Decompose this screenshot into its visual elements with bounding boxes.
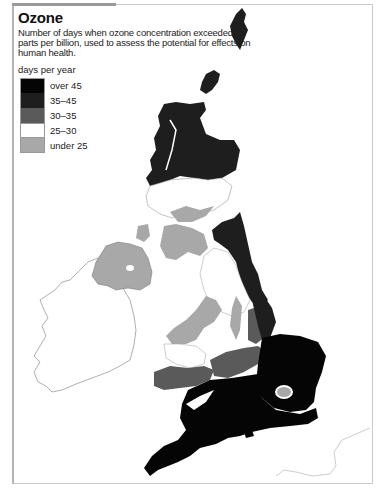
legend-label: 25–30 <box>50 125 76 136</box>
legend-item-over-45: over 45 <box>20 78 88 93</box>
map-title: Ozone <box>18 9 63 26</box>
pennines-gray <box>166 296 222 344</box>
london <box>276 386 292 398</box>
map-description: Number of days when ozone concentration … <box>18 28 263 58</box>
legend-swatch <box>20 93 45 108</box>
legend-label: under 25 <box>50 140 88 151</box>
north-wales-white <box>164 344 206 368</box>
legend-label: 35–45 <box>50 95 76 106</box>
east-anglia <box>256 334 326 412</box>
north-scotland <box>146 102 240 186</box>
legend-label: 30–35 <box>50 110 76 121</box>
legend-swatch <box>20 138 45 153</box>
southwest-scotland-gray <box>160 224 208 260</box>
legend-title: days per year <box>18 64 76 75</box>
legend-item-under-25: under 25 <box>20 138 88 153</box>
legend-swatch <box>20 123 45 138</box>
legend-item-25-30: 25–30 <box>20 123 88 138</box>
legend-label: over 45 <box>50 80 82 91</box>
legend-item-30-35: 30–35 <box>20 108 88 123</box>
legend: over 45 35–45 30–35 25–30 under 25 <box>20 78 88 153</box>
legend-swatch <box>20 78 45 93</box>
legend-item-35-45: 35–45 <box>20 93 88 108</box>
france-coast <box>276 428 370 476</box>
orkney <box>200 70 220 94</box>
legend-swatch <box>20 108 45 123</box>
northern-ireland <box>92 242 152 290</box>
